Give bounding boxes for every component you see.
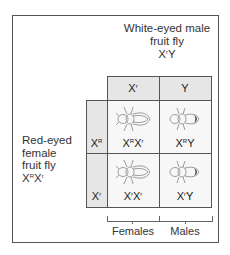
male-parent-label: White-eyed male fruit fly XrY (112, 22, 222, 61)
row-header-xR: XR (86, 137, 107, 149)
row-header-xr: Xr (86, 190, 107, 202)
fly-female-icon (113, 157, 153, 187)
females-label: Females (107, 225, 159, 237)
female-parent-label: Red-eyed female fruit fly XRXr (22, 134, 72, 184)
grid-line (86, 207, 212, 208)
males-label: Males (159, 225, 211, 237)
cell-genotype-XRY: XRY (159, 137, 211, 149)
column-header-xr: Xr (107, 82, 159, 94)
cell-genotype-XrXr: XrXr (107, 190, 159, 202)
grid-line (86, 100, 212, 101)
grid-line (211, 76, 212, 208)
bracket-tick (132, 221, 133, 224)
grid-line (86, 153, 212, 154)
fly-male-icon (165, 159, 205, 185)
female-parent-line3: fruit fly (22, 159, 72, 172)
female-parent-line1: Red-eyed (22, 134, 72, 147)
fly-male-icon (165, 106, 205, 132)
male-parent-genotype: XrY (112, 48, 222, 61)
bracket-tick (185, 221, 186, 224)
males-bracket (159, 216, 213, 222)
cell-genotype-XrY: XrY (159, 190, 211, 202)
female-parent-genotype: XRXr (22, 172, 72, 185)
male-parent-line1: White-eyed male (112, 22, 222, 35)
fly-female-icon (113, 104, 153, 134)
females-bracket (107, 216, 160, 222)
column-header-y: Y (159, 82, 211, 94)
male-parent-line2: fruit fly (112, 35, 222, 48)
cell-genotype-XRXr: XRXr (107, 137, 159, 149)
female-parent-line2: female (22, 147, 72, 160)
